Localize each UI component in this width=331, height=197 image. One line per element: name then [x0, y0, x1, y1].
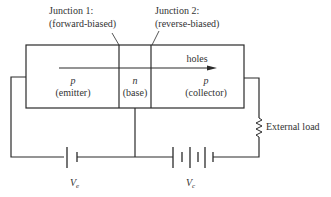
arrowhead-icon — [207, 66, 217, 71]
junction1-leader — [112, 33, 119, 45]
resistor-icon — [256, 118, 262, 137]
emitter-type: p — [70, 75, 76, 86]
load-label: External load — [266, 121, 320, 132]
junction1-subtitle: (forward-biased) — [49, 18, 116, 30]
collector-type: p — [203, 75, 209, 86]
collector-label: (collector) — [185, 87, 227, 99]
collector-wire — [244, 78, 259, 118]
junction1-title: Junction 1: — [49, 5, 93, 16]
junction2-subtitle: (reverse-biased) — [155, 18, 219, 30]
emitter-label: (emitter) — [56, 87, 91, 99]
collector-return-wire — [213, 137, 259, 157]
base-label: (base) — [123, 87, 147, 99]
junction2-title: Junction 2: — [155, 5, 199, 16]
ve-label: Ve — [70, 177, 79, 190]
transistor-diagram: Junction 1: (forward-biased) Junction 2:… — [0, 0, 331, 197]
base-type: n — [133, 75, 138, 86]
vc-label: Vc — [186, 177, 196, 190]
junction2-leader — [152, 31, 159, 45]
holes-label: holes — [186, 53, 207, 64]
